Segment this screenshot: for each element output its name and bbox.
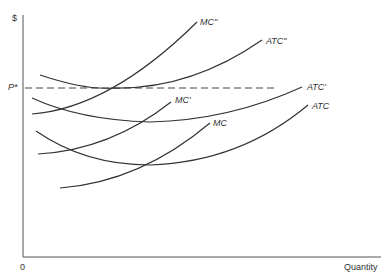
- atc1-label: ATC': [307, 82, 326, 92]
- mc0-curve: [60, 123, 210, 188]
- x-axis-label: Quantity: [344, 262, 378, 272]
- atc0-curve: [36, 105, 308, 165]
- mc1-label: MC': [175, 95, 191, 105]
- mc2-curve: [32, 22, 197, 114]
- price-label: P*: [8, 82, 18, 92]
- atc2-curve: [40, 40, 262, 88]
- cost-curves-diagram: [0, 0, 390, 278]
- mc0-label: MC: [213, 118, 227, 128]
- mc2-label: MC": [200, 17, 217, 27]
- origin-label: 0: [20, 262, 25, 272]
- atc2-label: ATC": [266, 36, 287, 46]
- atc0-label: ATC: [312, 101, 329, 111]
- y-axis-label: $: [12, 13, 17, 23]
